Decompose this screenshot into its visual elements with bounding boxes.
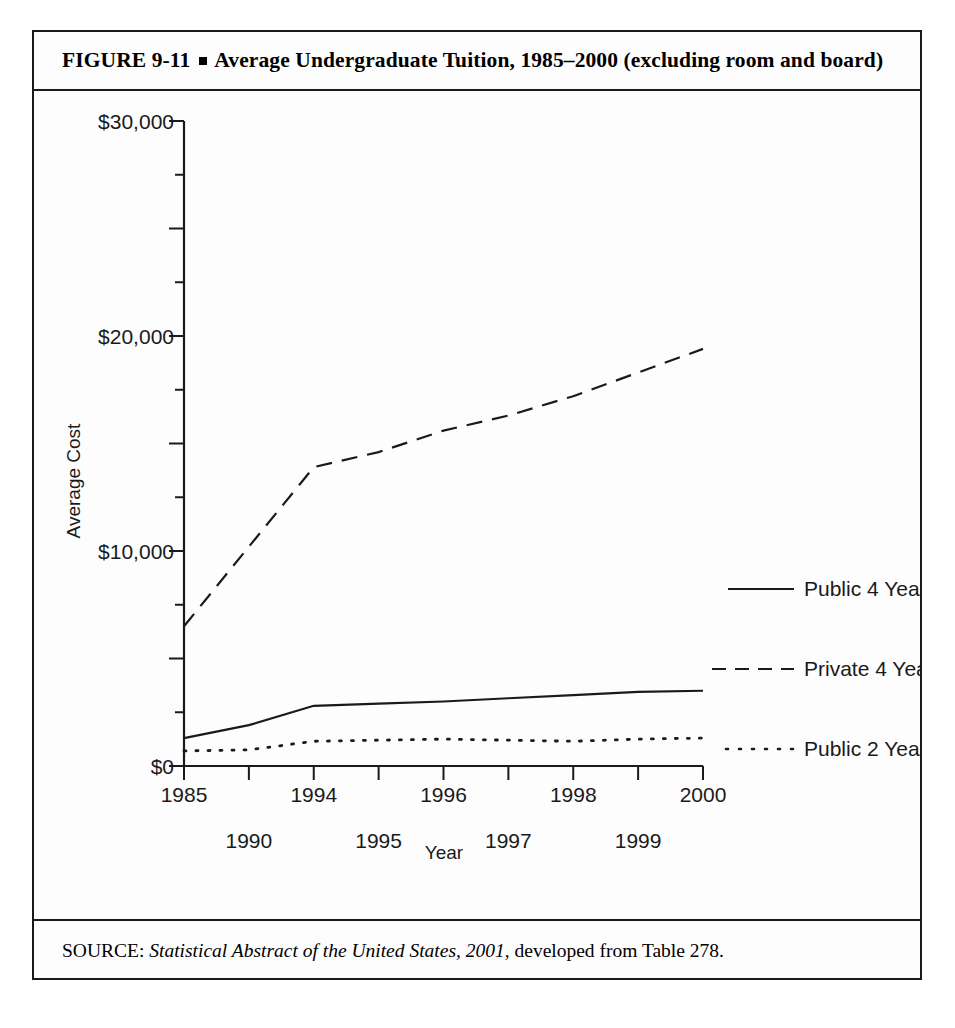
figure-title-text: Average Undergraduate Tuition, 1985–2000…	[214, 48, 883, 72]
source-prefix: SOURCE:	[62, 940, 144, 961]
x-tick-label: 2000	[680, 783, 727, 806]
y-tick-label: $10,000	[98, 540, 174, 563]
line-chart: Average Cost $30,000 $20,000 $10,000 $0 …	[34, 91, 920, 871]
series-line-public-4-year	[184, 690, 703, 737]
x-tick-label: 1985	[161, 783, 208, 806]
legend-item-private-4-year: Private 4 Year	[712, 657, 920, 680]
y-tick-label: $30,000	[98, 110, 174, 133]
series-line-private-4-year	[184, 348, 703, 625]
figure-title: FIGURE 9-11Average Undergraduate Tuition…	[62, 46, 894, 75]
figure-source: SOURCE: Statistical Abstract of the Unit…	[62, 940, 894, 962]
source-title: Statistical Abstract of the United State…	[149, 940, 509, 961]
x-tick-label: 1998	[550, 783, 597, 806]
figure-header: FIGURE 9-11Average Undergraduate Tuition…	[34, 32, 920, 91]
y-axis-title: Average Cost	[63, 422, 84, 537]
y-tick-label: $20,000	[98, 325, 174, 348]
legend-item-public-4-year: Public 4 Year	[728, 577, 920, 600]
x-tick-label: 1990	[226, 829, 273, 852]
x-tick-label: 1995	[355, 829, 402, 852]
legend-label: Public 2 Year	[804, 737, 920, 760]
axis-frame	[184, 121, 703, 766]
x-tick-label: 1996	[420, 783, 467, 806]
chart-legend: Public 4 Year Private 4 Year Public 2 Ye…	[712, 577, 920, 760]
series-line-public-2-year	[184, 738, 703, 751]
legend-label: Private 4 Year	[804, 657, 920, 680]
x-axis-ticks	[184, 766, 703, 780]
square-bullet-icon	[199, 57, 207, 65]
data-series-layer	[184, 348, 703, 750]
plot-region: Average Cost $30,000 $20,000 $10,000 $0 …	[34, 91, 920, 919]
legend-item-public-2-year: Public 2 Year	[726, 737, 920, 760]
x-tick-label: 1997	[485, 829, 532, 852]
y-axis-ticks	[169, 121, 184, 766]
figure-container: FIGURE 9-11Average Undergraduate Tuition…	[32, 30, 922, 980]
legend-label: Public 4 Year	[804, 577, 920, 600]
x-tick-label: 1999	[615, 829, 662, 852]
figure-source-bar: SOURCE: Statistical Abstract of the Unit…	[34, 919, 920, 978]
x-tick-label: 1994	[290, 783, 337, 806]
x-axis-title: Year	[425, 842, 464, 863]
figure-number: FIGURE 9-11	[62, 48, 190, 72]
source-rest: developed from Table 278.	[514, 940, 723, 961]
y-axis-tick-labels: $30,000 $20,000 $10,000 $0	[98, 110, 174, 778]
